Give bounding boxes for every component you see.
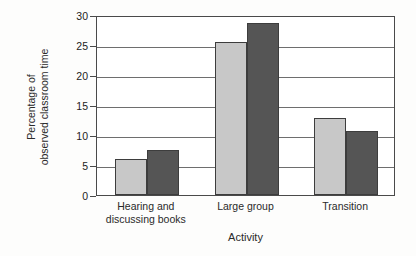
- bar-1-2: [215, 42, 247, 195]
- bar-1-3: [314, 118, 346, 195]
- y-axis-tick-label: 25: [62, 41, 88, 51]
- y-axis-tick-label: 20: [62, 71, 88, 81]
- x-axis-category-label-line: Transition: [280, 200, 410, 213]
- y-axis-title: Percentage of observed classroom time: [14, 18, 62, 196]
- y-axis-title-line-1: Percentage of: [25, 49, 38, 166]
- x-axis-category-label-line: discussing books: [81, 213, 211, 226]
- bar-2-3: [346, 131, 378, 195]
- bar-1-1: [115, 159, 147, 195]
- plot-area: [96, 16, 395, 196]
- y-axis-tick-label: 30: [62, 11, 88, 21]
- x-axis-title: Activity: [96, 231, 395, 243]
- bar-2-1: [147, 150, 179, 195]
- y-axis-title-line-2: observed classroom time: [38, 49, 51, 166]
- bar-2-2: [247, 23, 279, 195]
- y-axis-tick-label: 15: [62, 101, 88, 111]
- chart-figure: Percentage of observed classroom time 05…: [0, 0, 416, 256]
- x-axis-category-label: Transition: [280, 200, 410, 213]
- y-axis-tick-label: 5: [62, 161, 88, 171]
- y-axis-tick-label: 10: [62, 131, 88, 141]
